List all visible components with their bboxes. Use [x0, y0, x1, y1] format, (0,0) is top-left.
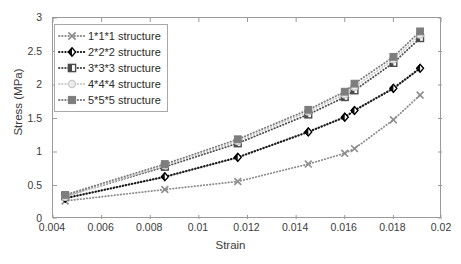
x-tick-label: 0.004: [39, 221, 65, 233]
legend-item-label: 5*5*5 structure: [86, 94, 161, 106]
chart-legend: 1*1*1 structure2*2*2 structure3*3*3 stru…: [54, 24, 168, 112]
legend-item-label: 2*2*2 structure: [86, 46, 161, 58]
legend-marker-icon: [58, 29, 86, 43]
y-tick-label: 3: [0, 11, 42, 23]
x-tick-label: 0.012: [233, 221, 259, 233]
legend-item-3[interactable]: 3*3*3 structure: [58, 60, 161, 76]
legend-item-label: 3*3*3 structure: [86, 62, 161, 74]
x-tick-label: 0.016: [331, 221, 357, 233]
legend-marker-icon: [58, 77, 86, 91]
legend-item-1[interactable]: 1*1*1 structure: [58, 28, 161, 44]
x-tick-label: 0.006: [87, 221, 113, 233]
x-tick-label: 0.01: [188, 221, 208, 233]
legend-marker-icon: [58, 61, 86, 75]
x-tick-label: 0.008: [136, 221, 162, 233]
legend-item-label: 1*1*1 structure: [86, 30, 161, 42]
legend-marker-icon: [58, 93, 86, 107]
legend-item-5[interactable]: 5*5*5 structure: [58, 92, 161, 108]
legend-item-2[interactable]: 2*2*2 structure: [58, 44, 161, 60]
y-tick-label: 0: [0, 212, 42, 224]
legend-item-4[interactable]: 4*4*4 structure: [58, 76, 161, 92]
stress-strain-chart-figure: 00.511.522.53 Stress (MPa) 0.0040.0060.0…: [0, 0, 461, 264]
y-tick-label: 0.5: [0, 179, 42, 191]
x-axis-label: Strain: [0, 239, 461, 251]
legend-marker-icon: [58, 45, 86, 59]
x-tick-label: 0.014: [282, 221, 308, 233]
x-tick-label: 0.018: [379, 221, 405, 233]
y-axis-label: Stress (MPa): [12, 42, 24, 162]
x-tick-label: 0.02: [431, 221, 451, 233]
legend-item-label: 4*4*4 structure: [86, 78, 161, 90]
